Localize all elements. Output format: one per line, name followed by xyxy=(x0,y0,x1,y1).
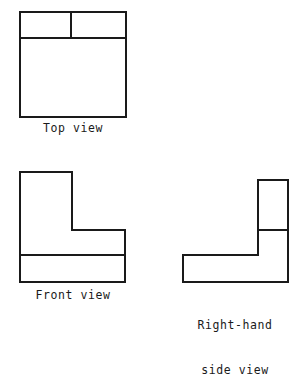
right-hand-side-view-label-line-1: Right-hand xyxy=(176,318,294,333)
right-hand-side-view-geometry xyxy=(183,180,288,282)
right-hand-side-view-label-line-2: side view xyxy=(176,363,294,378)
front-view-label: Front view xyxy=(18,288,128,303)
right-hand-side-view-label: Right-hand side view xyxy=(176,288,294,378)
front-view-outline xyxy=(20,172,125,282)
top-view-geometry xyxy=(20,12,126,117)
top-view-outline xyxy=(20,12,126,117)
top-view-label: Top view xyxy=(20,121,126,136)
front-view-geometry xyxy=(20,172,125,282)
